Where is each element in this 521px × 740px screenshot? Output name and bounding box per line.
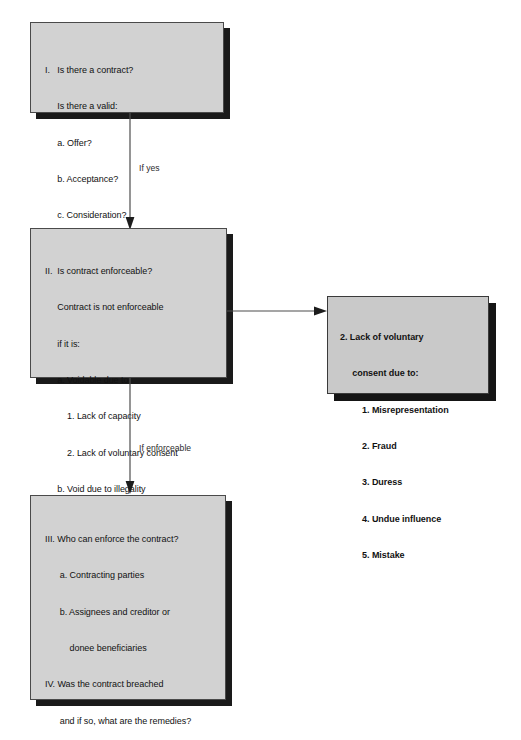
- node-lack-of-voluntary-consent: 2. Lack of voluntary consent due to: 1. …: [327, 296, 489, 394]
- node-enforceable-line-1: Contract is not enforceable: [45, 301, 178, 313]
- node-contract-text: I. Is there a contract? Is there a valid…: [45, 40, 133, 246]
- node-consent-line-0: 2. Lack of voluntary: [340, 331, 449, 343]
- node-contract-line-3: b. Acceptance?: [45, 173, 133, 185]
- node-consent-line-5: 4. Undue influence: [340, 513, 449, 525]
- node-enforce-breach-text: III. Who can enforce the contract? a. Co…: [45, 509, 191, 740]
- node-enforceable-line-0: II. Is contract enforceable?: [45, 265, 178, 277]
- node-contract-line-1: Is there a valid:: [45, 100, 133, 112]
- node-consent-text: 2. Lack of voluntary consent due to: 1. …: [340, 307, 449, 585]
- edge-label-if-enforceable: If enforceable: [139, 443, 191, 453]
- node-is-contract-enforceable: II. Is contract enforceable? Contract is…: [30, 228, 227, 378]
- node-enforcement-and-breach: III. Who can enforce the contract? a. Co…: [30, 495, 226, 700]
- node-enforceable-line-3: a. Voidable due to:: [45, 374, 178, 386]
- node-enforce-breach-line-0: III. Who can enforce the contract?: [45, 533, 191, 545]
- node-consent-line-3: 2. Fraud: [340, 440, 449, 452]
- node-consent-line-2: 1. Misrepresentation: [340, 404, 449, 416]
- node-contract-line-2: a. Offer?: [45, 137, 133, 149]
- node-contract-line-0: I. Is there a contract?: [45, 64, 133, 76]
- node-enforce-breach-line-3: donee beneficiaries: [45, 642, 191, 654]
- flowchart-canvas: I. Is there a contract? Is there a valid…: [0, 0, 521, 740]
- node-enforceable-line-6: b. Void due to illegality: [45, 483, 178, 495]
- node-consent-line-4: 3. Duress: [340, 476, 449, 488]
- node-contract-line-4: c. Consideration?: [45, 209, 133, 221]
- edge-label-if-yes: If yes: [139, 163, 160, 173]
- node-consent-line-1: consent due to:: [340, 367, 449, 379]
- node-enforceable-line-2: if it is:: [45, 338, 178, 350]
- node-enforce-breach-line-4: IV. Was the contract breached: [45, 678, 191, 690]
- node-enforce-breach-line-1: a. Contracting parties: [45, 569, 191, 581]
- node-consent-line-6: 5. Mistake: [340, 549, 449, 561]
- node-enforceable-line-4: 1. Lack of capacity: [45, 410, 178, 422]
- node-enforce-breach-line-2: b. Assignees and creditor or: [45, 606, 191, 618]
- node-is-there-a-contract: I. Is there a contract? Is there a valid…: [30, 22, 224, 113]
- arrow-enforceable-to-enforce-breach: [129, 378, 141, 496]
- node-enforce-breach-line-5: and if so, what are the remedies?: [45, 715, 191, 727]
- arrow-enforceable-to-consent: [227, 310, 331, 322]
